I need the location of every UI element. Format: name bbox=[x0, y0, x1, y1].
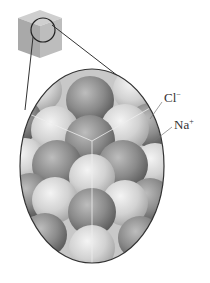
sodium-charge: + bbox=[189, 117, 194, 126]
sodium-symbol: Na bbox=[174, 117, 189, 132]
sodium-label: Na+ bbox=[174, 117, 194, 133]
chloride-charge: − bbox=[176, 90, 181, 99]
zoom-line-right bbox=[52, 25, 118, 76]
chloride-symbol: Cl bbox=[164, 90, 176, 105]
nacl-lattice-diagram bbox=[0, 0, 210, 283]
chloride-label: Cl− bbox=[164, 90, 181, 106]
crystal-cube bbox=[18, 10, 62, 58]
